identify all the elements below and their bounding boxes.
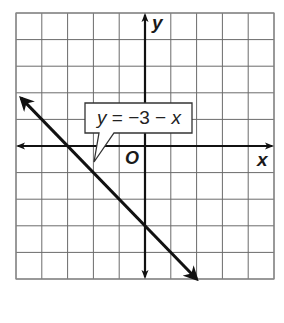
x-axis-label: x	[257, 150, 268, 169]
y-axis-label: y	[152, 13, 163, 32]
coordinate-graph	[0, 0, 284, 323]
equation-variable: x	[172, 107, 182, 129]
equation-equals: =	[112, 107, 123, 129]
equation-label: y = −3 − x	[86, 104, 192, 132]
equation-operator: −	[155, 107, 166, 129]
origin-label: O	[125, 149, 139, 167]
equation-lhs: y	[97, 107, 107, 129]
equation-constant: −3	[128, 107, 150, 129]
